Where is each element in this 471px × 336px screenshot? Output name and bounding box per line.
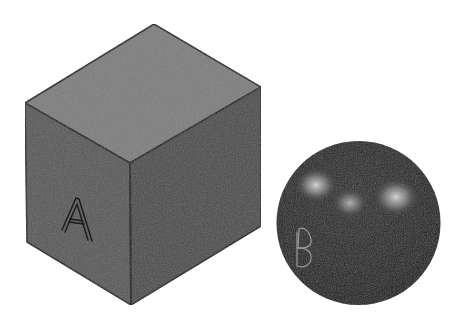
sphere-body: [277, 141, 441, 305]
scene-canvas: [0, 0, 471, 336]
cube-a: [25, 24, 261, 305]
cube-front-edge: [130, 163, 131, 305]
sphere-b: [277, 141, 441, 305]
